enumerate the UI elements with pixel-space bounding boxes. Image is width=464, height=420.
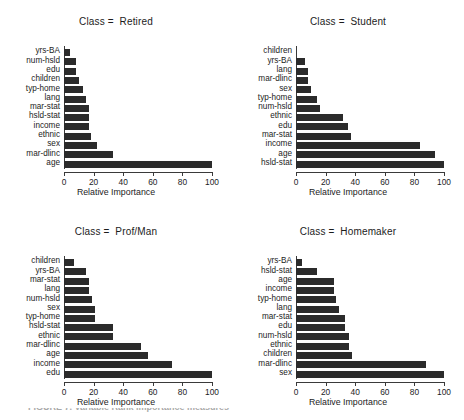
y-tick-label: edu	[278, 121, 292, 130]
bar-rows: childrenyrs-BAmar-statlangnum-hsldsextyp…	[64, 258, 212, 379]
y-tick-label: hsld-stat	[261, 158, 292, 167]
bar-row: income	[296, 286, 444, 295]
bar-row: ethnic	[296, 342, 444, 351]
y-tick-label: edu	[46, 65, 60, 74]
figure-panel-grid: Class = Retired yrs-BAnum-hsldeduchildre…	[0, 0, 464, 420]
bar-row: lang	[296, 304, 444, 313]
bar-row: mar-dlinc	[64, 342, 212, 351]
x-tick	[123, 382, 124, 386]
x-tick-label: 20	[321, 177, 330, 187]
x-tick	[153, 172, 154, 176]
y-tick-label: typ-home	[258, 294, 292, 303]
bar	[64, 49, 70, 56]
x-tick-label: 80	[410, 177, 419, 187]
bar	[296, 105, 320, 112]
bar-row: hsld-stat	[64, 113, 212, 122]
y-tick-label: children	[263, 46, 292, 55]
y-tick-label: num-hsld	[258, 102, 292, 111]
bar	[296, 352, 352, 359]
bar	[296, 161, 444, 168]
bar-row: children	[64, 258, 212, 267]
x-tick	[296, 382, 297, 386]
y-tick-label: ethnic	[270, 111, 292, 120]
x-tick	[355, 172, 356, 176]
y-tick-label: sex	[279, 368, 292, 377]
bar	[64, 58, 76, 65]
bar	[296, 324, 345, 331]
x-tick-label: 20	[321, 387, 330, 397]
bar-row: mar-dlinc	[296, 360, 444, 369]
bar-row: typ-home	[296, 94, 444, 103]
bar-row: sex	[64, 141, 212, 150]
y-tick-label: num-hsld	[26, 294, 60, 303]
y-tick-label: typ-home	[26, 84, 60, 93]
bar-rows: childrenyrs-BAlangmar-dlincsextyp-homenu…	[296, 48, 444, 169]
bar	[296, 77, 308, 84]
bar-row: typ-home	[64, 85, 212, 94]
bar	[64, 371, 212, 378]
x-tick	[326, 172, 327, 176]
plot-area: yrs-BAnum-hsldeduchildrentyp-homelangmar…	[64, 48, 212, 169]
x-tick	[385, 172, 386, 176]
bar	[296, 151, 435, 158]
bar	[296, 306, 339, 313]
x-tick-label: 100	[437, 387, 451, 397]
y-tick-label: edu	[46, 368, 60, 377]
chart-panel-retired: Class = Retired yrs-BAnum-hsldeduchildre…	[0, 0, 232, 205]
bar	[64, 114, 89, 121]
y-tick-label: age	[46, 349, 60, 358]
y-tick-label: mar-stat	[30, 275, 60, 284]
chart-panel-homemaker: Class = Homemaker yrs-BAhsld-statageinco…	[232, 210, 464, 415]
bar-row: num-hsld	[296, 104, 444, 113]
y-tick-label: yrs-BA	[267, 256, 292, 265]
y-tick-label: sex	[279, 84, 292, 93]
bar-row: edu	[296, 323, 444, 332]
bar-row: hsld-stat	[64, 323, 212, 332]
bar	[64, 268, 86, 275]
y-tick-label: children	[31, 74, 60, 83]
x-tick-label: 0	[62, 177, 67, 187]
bar-row: hsld-stat	[296, 160, 444, 169]
bar-row: income	[64, 122, 212, 131]
bar-row: mar-dlinc	[296, 76, 444, 85]
bar-row: children	[296, 48, 444, 57]
x-tick	[212, 382, 213, 386]
bar	[64, 77, 79, 84]
x-tick	[123, 172, 124, 176]
bar	[296, 142, 420, 149]
x-tick	[444, 382, 445, 386]
bar-row: mar-stat	[296, 132, 444, 141]
bar-row: lang	[296, 67, 444, 76]
bar	[296, 343, 349, 350]
bar-row: ethnic	[64, 332, 212, 341]
bar-row: income	[64, 360, 212, 369]
bar	[64, 142, 97, 149]
x-axis-title: Relative Importance	[0, 187, 232, 197]
x-tick	[212, 172, 213, 176]
x-tick-label: 60	[148, 387, 157, 397]
y-tick-label: income	[34, 121, 60, 130]
bar-row: ethnic	[296, 113, 444, 122]
bar	[296, 114, 343, 121]
y-tick-label: yrs-BA	[35, 266, 60, 275]
y-tick-label: mar-stat	[262, 312, 292, 321]
bar	[296, 287, 334, 294]
bar	[64, 123, 89, 130]
x-tick-label: 0	[62, 387, 67, 397]
x-tick	[355, 382, 356, 386]
y-tick-label: age	[46, 158, 60, 167]
bar	[296, 333, 349, 340]
plot-area: childrenyrs-BAmar-statlangnum-hsldsextyp…	[64, 258, 212, 379]
x-tick	[296, 172, 297, 176]
y-tick-label: age	[278, 149, 292, 158]
bar	[296, 133, 351, 140]
y-tick-label: income	[266, 284, 292, 293]
bar-row: ethnic	[64, 132, 212, 141]
x-tick-label: 40	[119, 177, 128, 187]
y-tick-label: ethnic	[270, 340, 292, 349]
x-tick	[94, 172, 95, 176]
bar-row: edu	[64, 370, 212, 379]
y-tick-label: mar-dlinc	[258, 74, 292, 83]
bar	[64, 324, 113, 331]
bar-row: income	[296, 141, 444, 150]
